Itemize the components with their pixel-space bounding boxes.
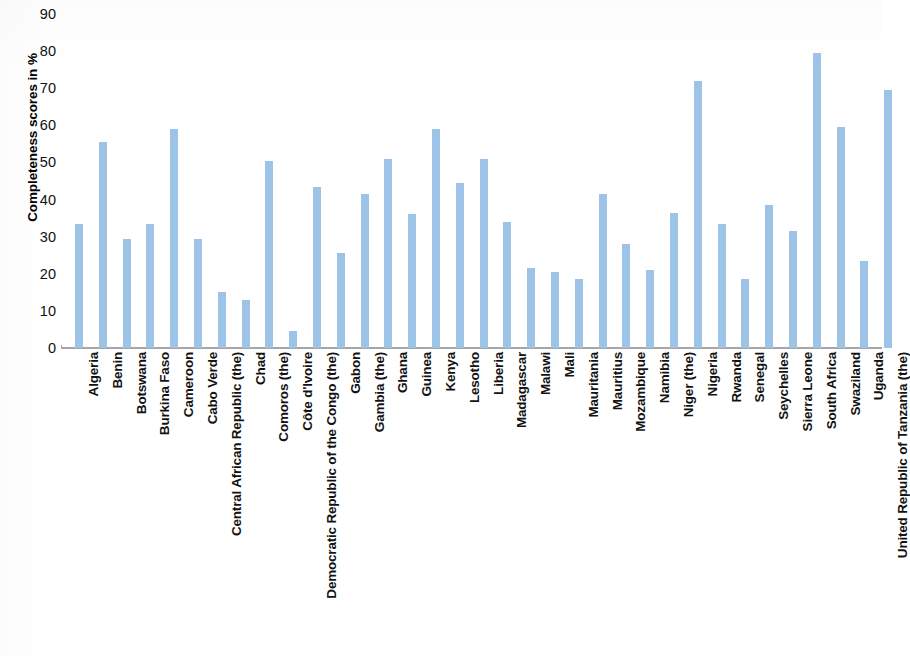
y-axis-tick: 90	[0, 7, 56, 22]
x-axis-tick-label: Sierra Leone	[801, 352, 815, 431]
bar	[694, 81, 702, 348]
x-axis-tick-label: Cabo Verde	[206, 352, 220, 424]
x-axis-tick: Algeria	[83, 352, 97, 396]
x-axis-tick: South Africa	[821, 352, 835, 429]
bar	[813, 53, 821, 348]
x-axis-tick-label: Cameroon	[182, 352, 196, 417]
bar	[218, 292, 226, 348]
bar	[456, 183, 464, 348]
bar	[741, 279, 749, 348]
bar	[599, 194, 607, 348]
x-axis-tick-label: Namibia	[658, 352, 672, 403]
x-axis-tick: Ghana	[392, 352, 406, 393]
bar	[480, 159, 488, 348]
bar	[146, 224, 154, 348]
bar	[670, 213, 678, 348]
x-axis-tick: Kenya	[440, 352, 454, 392]
x-axis-tick-label: Lesotho	[468, 352, 482, 403]
y-axis-tick: 50	[0, 155, 56, 170]
y-axis-tick: 10	[0, 304, 56, 319]
x-axis-tick-label: Malawi	[539, 352, 553, 395]
bar	[170, 129, 178, 348]
y-axis-line	[61, 345, 62, 349]
x-axis-tick-label: Swaziland	[849, 352, 863, 415]
bar	[408, 214, 416, 348]
x-axis-tick: Uganda	[868, 352, 882, 400]
bar	[837, 127, 845, 348]
y-axis-tick: 30	[0, 230, 56, 245]
x-axis-tick: Sierra Leone	[797, 352, 811, 431]
x-axis-tick-label: Chad	[254, 352, 268, 385]
y-axis-tick: 20	[0, 267, 56, 282]
bar	[646, 270, 654, 348]
x-axis-tick: Cabo Verde	[202, 352, 216, 424]
x-axis-tick: Central African Republic (the)	[226, 352, 240, 536]
x-axis-tick-label: Mali	[563, 352, 577, 377]
x-axis-tick: Mozambique	[630, 352, 644, 432]
x-axis-tick: Seychelles	[773, 352, 787, 420]
x-axis-tick-label: Ghana	[396, 352, 410, 393]
bar	[361, 194, 369, 348]
bar	[860, 261, 868, 348]
x-axis-tick-label: Mauritius	[611, 352, 625, 410]
bar	[289, 331, 297, 348]
x-axis-tick-label: Niger (the)	[682, 352, 696, 417]
bar	[551, 272, 559, 348]
x-axis-tick: Rwanda	[726, 352, 740, 403]
x-axis-tick-labels: AlgeriaBeninBotswanaBurkina FasoCameroon…	[64, 352, 882, 652]
x-axis-tick: Gambia (the)	[369, 352, 383, 432]
x-axis-tick-label: Botswana	[135, 352, 149, 414]
x-axis-tick: Niger (the)	[678, 352, 692, 417]
bar	[884, 90, 892, 348]
bar	[384, 159, 392, 348]
bar	[718, 224, 726, 348]
x-axis-tick: Guinea	[416, 352, 430, 397]
x-axis-tick-label: Uganda	[872, 352, 886, 400]
x-axis-tick: Democratic Republic of the Congo (the)	[321, 352, 335, 599]
x-axis-tick: Botswana	[131, 352, 145, 414]
x-axis-tick-label: Liberia	[492, 352, 506, 395]
x-axis-tick: Benin	[107, 352, 121, 389]
x-axis-tick: Chad	[250, 352, 264, 385]
x-axis-tick: Madagascar	[511, 352, 525, 428]
x-axis-tick-label: Comoros (the)	[277, 352, 291, 442]
x-axis-tick-label: Mauritania	[587, 352, 601, 418]
x-axis-tick: Liberia	[488, 352, 502, 395]
y-axis-tick: 40	[0, 193, 56, 208]
bar	[123, 239, 131, 348]
bar	[527, 268, 535, 348]
x-axis-tick: Nigeria	[702, 352, 716, 396]
x-axis-tick-label: Kenya	[444, 352, 458, 392]
bar	[265, 161, 273, 348]
x-axis-tick: Namibia	[654, 352, 668, 403]
x-axis-tick: Côte d'Ivoire	[297, 352, 311, 431]
x-axis-tick: Comoros (the)	[273, 352, 287, 442]
x-axis-tick-label: Gambia (the)	[373, 352, 387, 432]
x-axis-tick-label: United Republic of Tanzania (the)	[896, 352, 910, 558]
x-axis-tick: Swaziland	[845, 352, 859, 415]
x-axis-tick-label: Central African Republic (the)	[230, 352, 244, 536]
bar	[194, 239, 202, 348]
x-axis-tick-label: Burkina Faso	[158, 352, 172, 435]
bar	[789, 231, 797, 348]
x-axis-tick-label: Benin	[111, 352, 125, 389]
x-axis-tick: Lesotho	[464, 352, 478, 403]
y-axis-tick: 70	[0, 81, 56, 96]
x-axis-tick-label: Senegal	[753, 352, 767, 402]
x-axis-tick-label: South Africa	[825, 352, 839, 429]
bar	[337, 253, 345, 348]
x-axis-tick-label: Mozambique	[634, 352, 648, 432]
x-axis-tick: Senegal	[749, 352, 763, 402]
x-axis-tick-label: Democratic Republic of the Congo (the)	[325, 352, 339, 599]
bar	[432, 129, 440, 348]
bar	[242, 300, 250, 348]
bar	[75, 224, 83, 348]
x-axis-tick-label: Seychelles	[777, 352, 791, 420]
y-axis-tick: 0	[0, 341, 56, 356]
x-axis-tick-label: Rwanda	[730, 352, 744, 403]
y-axis-tick: 60	[0, 118, 56, 133]
y-axis-tick-labels: 9080706050403020100	[0, 0, 56, 360]
bar	[99, 142, 107, 348]
x-axis-tick: Cameroon	[178, 352, 192, 417]
